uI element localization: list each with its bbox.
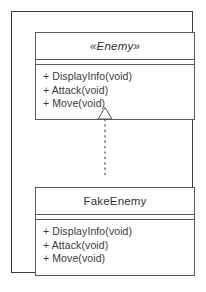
- method-list-enemy: + DisplayInfo(void) + Attack(void) + Mov…: [36, 65, 194, 111]
- class-name-fake-enemy: FakeEnemy: [36, 188, 194, 214]
- diagram-canvas: «Enemy» + DisplayInfo(void) + Attack(voi…: [0, 0, 206, 292]
- hollow-triangle-arrowhead: [98, 108, 112, 120]
- method-item: + DisplayInfo(void): [43, 70, 194, 84]
- method-item: + DisplayInfo(void): [43, 225, 194, 239]
- method-item: + Attack(void): [43, 239, 194, 253]
- realization-connector: [91, 106, 119, 176]
- method-list-fake-enemy: + DisplayInfo(void) + Attack(void) + Mov…: [36, 220, 194, 266]
- method-item: + Attack(void): [43, 84, 194, 98]
- uml-class-fake-enemy[interactable]: FakeEnemy + DisplayInfo(void) + Attack(v…: [35, 187, 195, 276]
- method-item: + Move(void): [43, 252, 194, 266]
- class-name-enemy: «Enemy»: [36, 33, 194, 59]
